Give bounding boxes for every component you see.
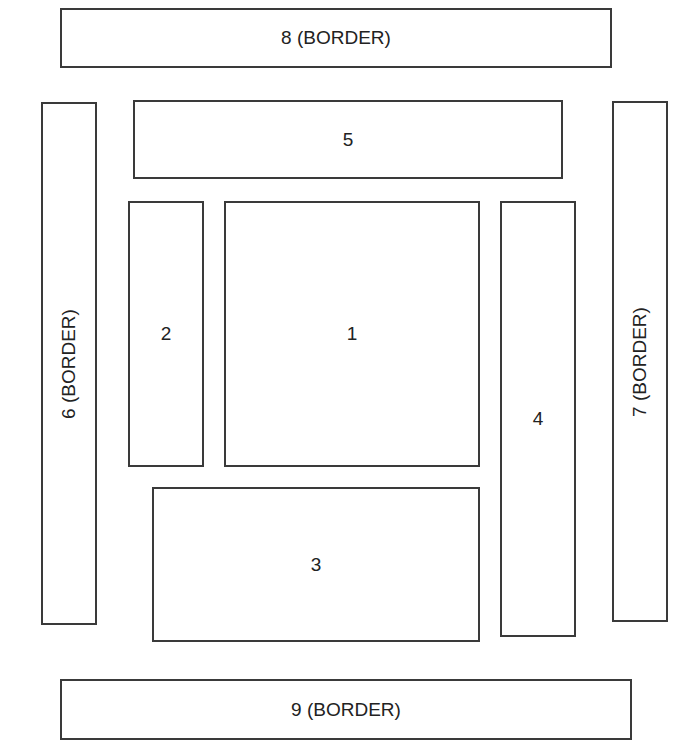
region-4: 4	[500, 201, 576, 637]
region-6-border: 6 (BORDER)	[41, 102, 97, 625]
region-label: 7 (BORDER)	[629, 307, 651, 417]
region-label: 9 (BORDER)	[291, 699, 401, 721]
region-2: 2	[128, 201, 204, 467]
region-label: 4	[533, 408, 544, 430]
region-1: 1	[224, 201, 480, 467]
region-label: 2	[161, 323, 172, 345]
region-label: 1	[347, 323, 358, 345]
region-9-border: 9 (BORDER)	[60, 679, 632, 740]
region-5: 5	[133, 100, 563, 179]
region-label: 5	[343, 129, 354, 151]
region-8-border: 8 (BORDER)	[60, 8, 612, 68]
region-7-border: 7 (BORDER)	[612, 101, 668, 622]
region-label: 8 (BORDER)	[281, 27, 391, 49]
region-label: 3	[311, 554, 322, 576]
region-label: 6 (BORDER)	[58, 309, 80, 419]
region-3: 3	[152, 487, 480, 642]
